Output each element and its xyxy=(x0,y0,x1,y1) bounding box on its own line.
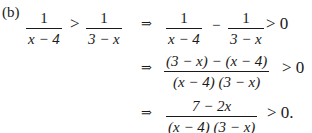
step1-tail: > 0 xyxy=(266,14,288,34)
greater-than-relation: > xyxy=(70,14,80,34)
part-label: (b) xyxy=(2,4,20,21)
lhs-fraction-2: 1 3 − x xyxy=(86,11,122,47)
denominator: 3 − x xyxy=(86,29,122,47)
numerator: 7 − 2x xyxy=(190,99,233,116)
implies-arrow-icon: ⇒ xyxy=(141,16,152,32)
step1-fraction-1: 1 x − 4 xyxy=(166,11,202,47)
denominator: 3 − x xyxy=(228,29,264,47)
denominator: (x − 4) (3 − x) xyxy=(166,117,257,133)
numerator: 1 xyxy=(98,11,110,28)
step3-fraction: 7 − 2x (x − 4) (3 − x) xyxy=(166,99,257,133)
denominator: x − 4 xyxy=(166,29,202,47)
lhs-fraction-1: 1 x − 4 xyxy=(26,11,62,47)
denominator: (x − 4) (3 − x) xyxy=(171,72,262,90)
numerator: (3 − x) − (x − 4) xyxy=(164,54,269,71)
step2-tail: > 0 xyxy=(282,58,304,78)
numerator: 1 xyxy=(38,11,50,28)
numerator: 1 xyxy=(178,11,190,28)
implies-arrow-icon: ⇒ xyxy=(141,60,152,76)
minus-operator: − xyxy=(212,17,220,34)
denominator: x − 4 xyxy=(26,29,62,47)
step3-tail: > 0. xyxy=(267,103,294,123)
step1-fraction-2: 1 3 − x xyxy=(228,11,264,47)
numerator: 1 xyxy=(240,11,252,28)
implies-arrow-icon: ⇒ xyxy=(141,105,152,121)
step2-fraction: (3 − x) − (x − 4) (x − 4) (3 − x) xyxy=(164,54,269,90)
